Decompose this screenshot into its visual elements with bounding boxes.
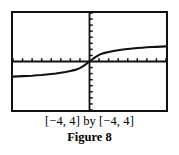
graph-plot	[13, 13, 166, 110]
figure-number-label: Figure 8	[0, 130, 179, 145]
viewing-window-text: [−4, 4] by [−4, 4]	[0, 114, 179, 129]
calculator-screen	[11, 11, 168, 112]
figure-caption: [−4, 4] by [−4, 4] Figure 8	[0, 114, 179, 145]
figure-container: [−4, 4] by [−4, 4] Figure 8	[0, 0, 179, 155]
